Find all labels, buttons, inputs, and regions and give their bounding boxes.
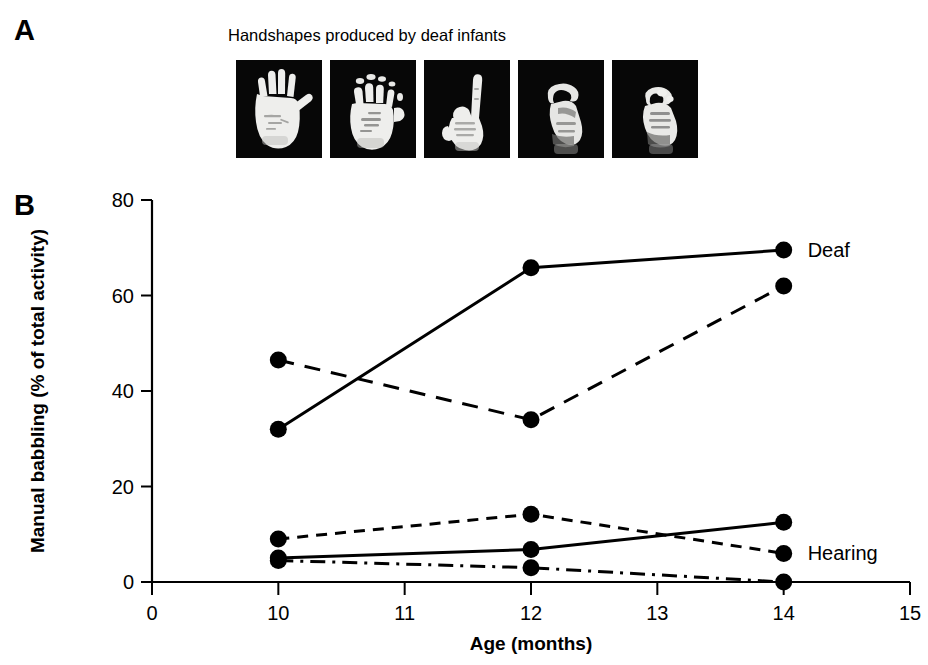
data-point-marker — [775, 242, 792, 259]
series-line-deaf-infant-1 — [278, 250, 783, 429]
data-point-marker — [523, 559, 540, 576]
data-point-marker — [270, 531, 287, 548]
data-point-marker — [270, 421, 287, 438]
series-line-deaf-infant-2 — [278, 286, 783, 420]
panel-a-title: Handshapes produced by deaf infants — [228, 26, 506, 45]
series-markers — [270, 242, 792, 591]
data-point-marker — [270, 552, 287, 569]
handshape-photo-pointing-index — [424, 60, 510, 158]
chart-svg: 020406080 0101112131415 Age (months) Man… — [0, 180, 928, 665]
x-tick-label: 15 — [899, 602, 921, 624]
y-axis-tick-labels: 020406080 — [112, 189, 134, 593]
handshape-image-strip — [236, 60, 698, 158]
data-point-marker — [523, 259, 540, 276]
data-point-marker — [523, 411, 540, 428]
data-point-marker — [775, 574, 792, 591]
handshape-photo-bent-claw — [330, 60, 416, 158]
y-tick-label: 80 — [112, 189, 134, 211]
handshape-photo-o-curved — [518, 60, 604, 158]
x-tick-label: 11 — [394, 602, 415, 624]
handshape-photo-open-palm — [236, 60, 322, 158]
data-point-marker — [270, 352, 287, 369]
series-label-deaf: Deaf — [808, 239, 851, 261]
data-point-marker — [523, 506, 540, 523]
y-tick-label: 40 — [112, 380, 134, 402]
x-axis-title: Age (months) — [470, 633, 592, 654]
y-tick-label: 0 — [123, 571, 134, 593]
y-axis-title: Manual babbling (% of total activity) — [27, 229, 48, 553]
x-tick-label: 14 — [773, 602, 795, 624]
y-tick-label: 20 — [112, 476, 134, 498]
figure-container: A Handshapes produced by deaf infants — [0, 0, 928, 665]
series-label-hearing: Hearing — [808, 542, 878, 564]
data-point-marker — [775, 514, 792, 531]
series-annotations: DeafHearing — [808, 239, 878, 564]
x-axis-tick-labels: 0101112131415 — [146, 602, 921, 624]
handshape-photo-closed-fist — [612, 60, 698, 158]
x-axis-ticks — [152, 582, 910, 595]
data-point-marker — [523, 541, 540, 558]
y-tick-label: 60 — [112, 285, 134, 307]
x-tick-label: 12 — [520, 602, 542, 624]
panel-a-letter: A — [14, 16, 35, 45]
x-tick-label: 10 — [267, 602, 289, 624]
data-point-marker — [775, 277, 792, 294]
data-point-marker — [775, 545, 792, 562]
line-chart: 020406080 0101112131415 Age (months) Man… — [0, 180, 928, 665]
x-tick-label: 13 — [646, 602, 668, 624]
y-axis-ticks — [141, 200, 152, 582]
x-tick-label: 0 — [146, 602, 157, 624]
